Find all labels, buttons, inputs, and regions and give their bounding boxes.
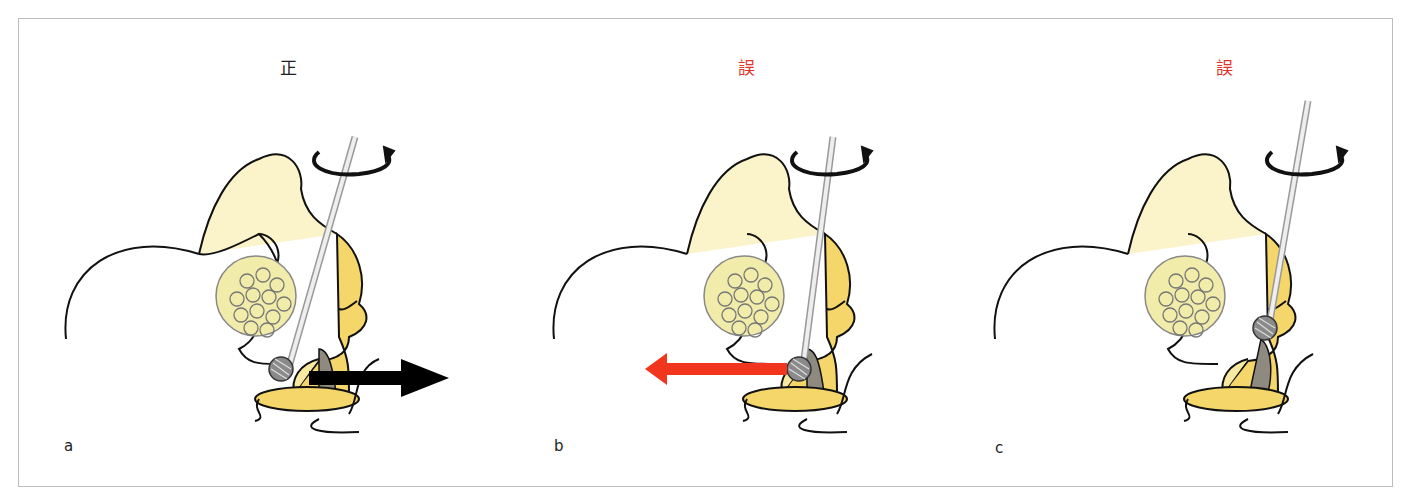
surgical-diagram-b bbox=[477, 19, 935, 488]
figure-frame: 正 bbox=[18, 18, 1393, 487]
surgical-diagram-c bbox=[935, 19, 1393, 488]
panel-a: 正 bbox=[19, 19, 477, 488]
panel-b: 誤 bbox=[477, 19, 935, 488]
panel-c: 誤 bbox=[935, 19, 1393, 488]
panel-label-c: c bbox=[995, 439, 1003, 457]
surgical-diagram-a bbox=[19, 19, 477, 488]
panel-label-b: b bbox=[554, 437, 564, 455]
panel-label-a: a bbox=[64, 437, 73, 455]
